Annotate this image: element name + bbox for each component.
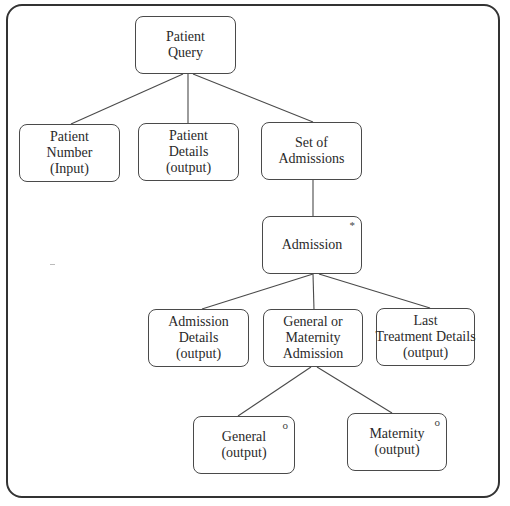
iteration-marker-icon: * [350, 220, 356, 231]
node-label: Set of [295, 135, 328, 151]
node-label: Patient [169, 128, 208, 144]
scan-artifact [50, 264, 55, 265]
edge-genmat-maternity [317, 367, 392, 413]
node-label: (output) [403, 345, 448, 361]
node-label: (output) [221, 445, 266, 461]
node-label: (output) [176, 346, 221, 362]
node-label: Admission [168, 314, 229, 330]
node-general: General (output) o [193, 416, 295, 474]
node-label: (output) [166, 160, 211, 176]
node-label: Maternity [285, 330, 340, 346]
node-label: Patient [50, 129, 89, 145]
edge-admission-details [202, 274, 313, 309]
node-label: Details [179, 330, 219, 346]
node-label: (Input) [50, 161, 89, 177]
node-label: Admissions [278, 151, 344, 167]
selection-marker-icon: o [283, 420, 289, 431]
node-label: Admission [282, 237, 343, 253]
node-label: Details [169, 144, 209, 160]
node-label: Treatment Details [375, 329, 475, 345]
node-label: Number [47, 145, 93, 161]
node-label: Query [168, 45, 203, 61]
node-patient-number: Patient Number (Input) [19, 124, 120, 182]
node-admission: Admission * [262, 216, 362, 274]
selection-marker-icon: o [435, 417, 441, 428]
node-patient-details: Patient Details (output) [138, 123, 239, 181]
node-label: (output) [374, 442, 419, 458]
edge-query-number [71, 74, 183, 124]
edge-query-admissions [193, 74, 313, 122]
node-label: Maternity [369, 426, 424, 442]
node-general-or-maternity: General or Maternity Admission [263, 309, 363, 367]
node-label: General [222, 429, 266, 445]
node-maternity: Maternity (output) o [347, 413, 447, 471]
node-admission-details: Admission Details (output) [148, 309, 249, 367]
edge-admission-lasttreat [319, 274, 430, 308]
node-patient-query: Patient Query [135, 16, 236, 74]
node-label: Last [413, 313, 437, 329]
node-last-treatment-details: Last Treatment Details (output) [376, 308, 475, 366]
edge-genmat-general [238, 367, 311, 416]
node-label: General or [283, 314, 342, 330]
node-label: Patient [166, 29, 205, 45]
edge-admission-genmat [313, 274, 314, 310]
node-label: Admission [283, 346, 344, 362]
node-set-of-admissions: Set of Admissions [261, 122, 362, 180]
